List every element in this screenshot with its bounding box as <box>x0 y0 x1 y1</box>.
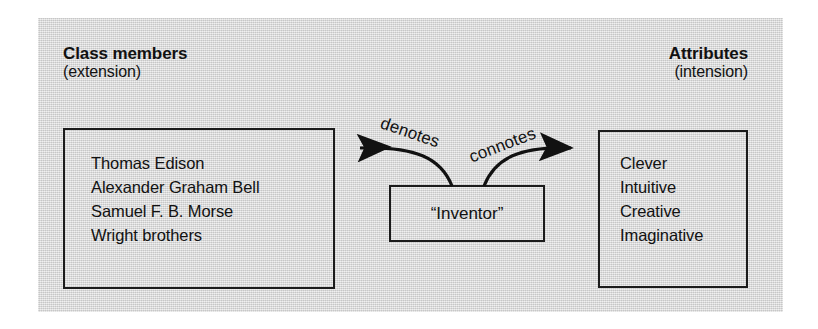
attributes-heading: Attributes (intension) <box>669 44 748 82</box>
class-members-heading: Class members (extension) <box>63 44 187 82</box>
term-label: “Inventor” <box>391 204 543 224</box>
list-item: Imaginative <box>620 224 703 248</box>
attributes-subtitle: (intension) <box>669 63 748 81</box>
list-item: Creative <box>620 200 703 224</box>
term-box: “Inventor” <box>389 185 545 242</box>
diagram-figure: Class members (extension) Attributes (in… <box>0 0 818 329</box>
list-item: Thomas Edison <box>91 152 259 176</box>
class-members-title: Class members <box>63 44 187 63</box>
attributes-box: Clever Intuitive Creative Imaginative <box>598 130 748 288</box>
list-item: Clever <box>620 152 703 176</box>
list-item: Alexander Graham Bell <box>91 176 259 200</box>
class-members-subtitle: (extension) <box>63 63 187 81</box>
list-item: Samuel F. B. Morse <box>91 200 259 224</box>
attributes-list: Clever Intuitive Creative Imaginative <box>620 152 703 248</box>
attributes-title: Attributes <box>669 44 748 63</box>
class-members-list: Thomas Edison Alexander Graham Bell Samu… <box>91 152 259 248</box>
class-members-box: Thomas Edison Alexander Graham Bell Samu… <box>63 128 335 289</box>
list-item: Intuitive <box>620 176 703 200</box>
list-item: Wright brothers <box>91 224 259 248</box>
